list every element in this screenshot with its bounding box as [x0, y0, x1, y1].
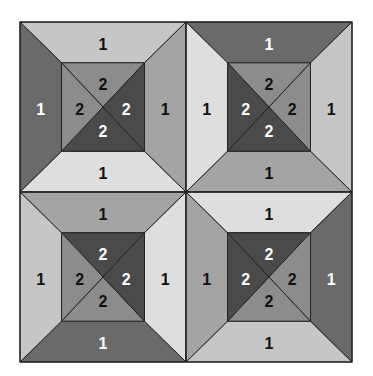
bottom-right-outer-left-label: 1: [202, 271, 211, 288]
bottom-right-outer-bottom-label: 1: [265, 335, 274, 352]
top-right-inner-right-label: 2: [288, 101, 297, 118]
bottom-left-inner-bottom-label: 2: [99, 293, 108, 310]
bottom-right-outer-right-label: 1: [327, 271, 336, 288]
top-right-outer-right-label: 1: [327, 101, 336, 118]
bottom-right-inner-top-label: 2: [265, 246, 274, 263]
bottom-right-outer-top-label: 1: [265, 206, 274, 223]
bottom-left-outer-top-label: 1: [99, 206, 108, 223]
top-right-outer-left-label: 1: [202, 101, 211, 118]
top-left-inner-bottom-label: 2: [99, 123, 108, 140]
top-left-outer-right-label: 1: [161, 101, 170, 118]
bottom-left-inner-left-label: 2: [75, 271, 84, 288]
bottom-left-outer-right-label: 1: [161, 271, 170, 288]
bottom-left-outer-left-label: 1: [36, 271, 45, 288]
top-left-inner-right-label: 2: [122, 101, 131, 118]
top-right-outer-top-label: 1: [265, 36, 274, 53]
bottom-right-inner-bottom-label: 2: [265, 293, 274, 310]
top-left-outer-top-label: 1: [99, 36, 108, 53]
bottom-left-outer-bottom-label: 1: [99, 335, 108, 352]
top-left-inner-left-label: 2: [75, 101, 84, 118]
quilt-svg: 11112222111122221111222211112222: [0, 0, 373, 376]
top-left-outer-bottom-label: 1: [99, 165, 108, 182]
bottom-left-inner-top-label: 2: [99, 246, 108, 263]
bottom-right-inner-right-label: 2: [288, 271, 297, 288]
bottom-right-inner-left-label: 2: [241, 271, 250, 288]
top-left-outer-left-label: 1: [36, 101, 45, 118]
quilt-diagram: 11112222111122221111222211112222: [0, 0, 373, 376]
top-right-inner-top-label: 2: [265, 76, 274, 93]
top-right-inner-left-label: 2: [241, 101, 250, 118]
top-right-inner-bottom-label: 2: [265, 123, 274, 140]
top-left-inner-top-label: 2: [99, 76, 108, 93]
bottom-left-inner-right-label: 2: [122, 271, 131, 288]
top-right-outer-bottom-label: 1: [265, 165, 274, 182]
